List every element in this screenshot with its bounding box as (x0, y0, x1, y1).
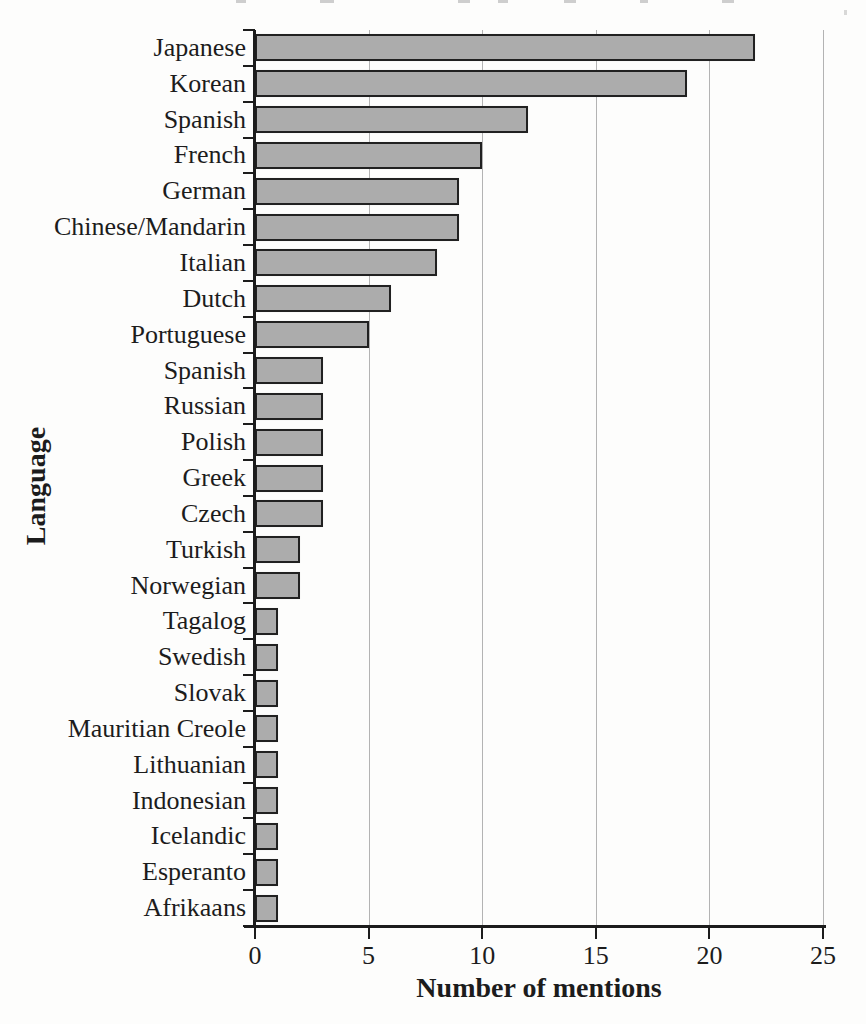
x-tick-label: 0 (249, 941, 262, 971)
category-label: Portuguese (0, 322, 255, 348)
category-label: Japanese (0, 35, 255, 61)
y-axis-tick (243, 280, 255, 282)
chart-row: Portuguese (0, 317, 823, 353)
y-axis-tick (243, 423, 255, 425)
y-axis-tick (243, 817, 255, 819)
chart-row: Czech (0, 496, 823, 532)
chart-row: Turkish (0, 532, 823, 568)
bar (255, 536, 300, 563)
category-label: French (0, 142, 255, 168)
category-label: German (0, 178, 255, 204)
y-axis-tick (243, 567, 255, 569)
bar-track (255, 66, 823, 102)
category-label: Slovak (0, 680, 255, 706)
category-label: Czech (0, 501, 255, 527)
bar (255, 715, 278, 742)
x-axis-tick (708, 927, 710, 939)
bar (255, 34, 755, 61)
chart-row: Mauritian Creole (0, 711, 823, 747)
chart-row: German (0, 173, 823, 209)
y-axis-tick (243, 638, 255, 640)
chart-row: Japanese (0, 30, 823, 66)
bar (255, 787, 278, 814)
bar (255, 142, 482, 169)
bar-track (255, 209, 823, 245)
chart-row: Lithuanian (0, 747, 823, 783)
y-axis-tick (243, 65, 255, 67)
bar-track (255, 854, 823, 890)
chart-row: Dutch (0, 281, 823, 317)
y-axis-tick (243, 746, 255, 748)
bar (255, 178, 459, 205)
chart-row: Norwegian (0, 568, 823, 604)
x-axis-tick (254, 927, 256, 939)
x-tick-label: 15 (583, 941, 609, 971)
y-axis-tick (243, 495, 255, 497)
scan-artifact (564, 0, 576, 3)
bar (255, 500, 323, 527)
x-axis-tick (481, 927, 483, 939)
x-axis-tick (368, 927, 370, 939)
bar-track (255, 388, 823, 424)
y-axis-tick (243, 853, 255, 855)
bar-track (255, 496, 823, 532)
y-axis-tick (243, 710, 255, 712)
category-label: Dutch (0, 286, 255, 312)
x-axis-line (244, 925, 826, 928)
y-axis-tick (243, 29, 255, 31)
chart-row: Swedish (0, 639, 823, 675)
category-rows: JapaneseKoreanSpanishFrenchGermanChinese… (0, 30, 823, 926)
bar (255, 357, 323, 384)
bar (255, 465, 323, 492)
scan-artifact (722, 0, 734, 3)
chart-row: Icelandic (0, 819, 823, 855)
x-tick-label: 5 (362, 941, 375, 971)
bar (255, 429, 323, 456)
bar-track (255, 747, 823, 783)
bar-track (255, 675, 823, 711)
gridline (823, 30, 824, 926)
bar (255, 70, 687, 97)
y-axis-tick (243, 889, 255, 891)
y-axis-tick (243, 137, 255, 139)
category-label: Esperanto (0, 859, 255, 885)
y-axis-tick (243, 244, 255, 246)
bar (255, 680, 278, 707)
y-axis-tick (243, 316, 255, 318)
bar-track (255, 711, 823, 747)
chart-row: Polish (0, 424, 823, 460)
category-label: Turkish (0, 537, 255, 563)
scan-artifact (498, 0, 508, 3)
y-axis-tick (243, 602, 255, 604)
category-label: Icelandic (0, 823, 255, 849)
bar-track (255, 173, 823, 209)
bar-track (255, 890, 823, 926)
bar (255, 751, 278, 778)
x-axis-title: Number of mentions (416, 972, 661, 1004)
bar-track (255, 353, 823, 389)
category-label: Spanish (0, 358, 255, 384)
scan-artifact (320, 0, 334, 3)
bar (255, 106, 528, 133)
y-axis-tick (243, 531, 255, 533)
category-label: Swedish (0, 644, 255, 670)
figure: Language JapaneseKoreanSpanishFrenchGerm… (0, 0, 866, 1024)
chart-row: Indonesian (0, 783, 823, 819)
category-label: Lithuanian (0, 752, 255, 778)
bar (255, 321, 369, 348)
chart-row: Greek (0, 460, 823, 496)
chart-row: Korean (0, 66, 823, 102)
bar-track (255, 317, 823, 353)
bar (255, 214, 459, 241)
chart-row: French (0, 138, 823, 174)
category-label: Korean (0, 71, 255, 97)
chart-row: Esperanto (0, 854, 823, 890)
bar (255, 393, 323, 420)
category-label: Norwegian (0, 573, 255, 599)
category-label: Spanish (0, 107, 255, 133)
bar (255, 572, 300, 599)
y-axis-tick (243, 387, 255, 389)
bar (255, 895, 278, 922)
chart-row: Slovak (0, 675, 823, 711)
x-axis-tick (822, 927, 824, 939)
